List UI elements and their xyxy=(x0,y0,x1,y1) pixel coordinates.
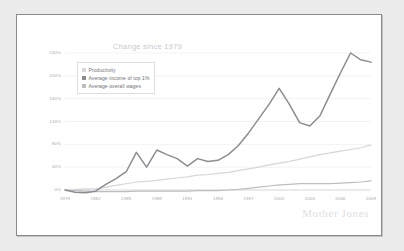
chart-legend: ProductivityAverage income of top 1%Aver… xyxy=(77,62,155,94)
page-background: Change since 1979 0%40%80%120%160%200%24… xyxy=(0,0,404,251)
legend-item: Average overall wages xyxy=(82,82,149,90)
legend-swatch-icon xyxy=(82,76,86,80)
legend-item-label: Average overall wages xyxy=(89,83,142,89)
legend-swatch-icon xyxy=(82,84,86,88)
legend-swatch-icon xyxy=(82,68,86,72)
legend-item: Average income of top 1% xyxy=(82,74,149,82)
legend-item-label: Productivity xyxy=(89,67,116,73)
legend-item-label: Average income of top 1% xyxy=(89,75,150,81)
chart-plot-svg xyxy=(17,15,383,237)
chart-plot-area: Change since 1979 0%40%80%120%160%200%24… xyxy=(17,15,381,235)
legend-item: Productivity xyxy=(82,66,149,74)
chart-figure-frame: Change since 1979 0%40%80%120%160%200%24… xyxy=(16,14,382,236)
mother-jones-watermark: Mother Jones xyxy=(302,207,369,219)
